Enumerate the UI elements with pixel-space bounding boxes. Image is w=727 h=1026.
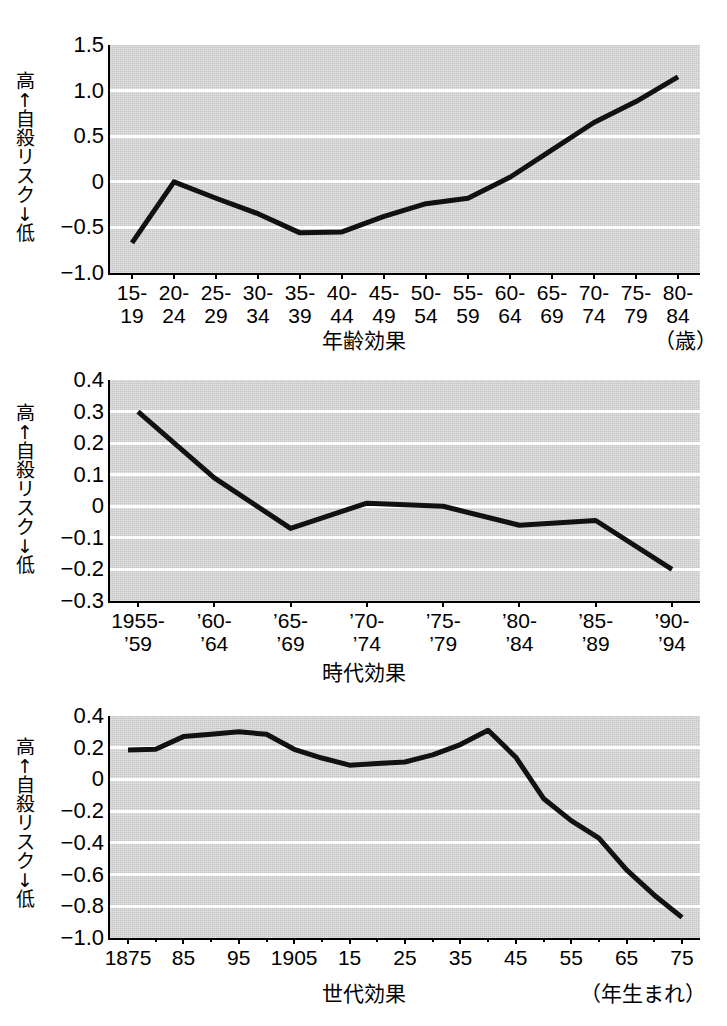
x-tick-label: 1875 (105, 946, 152, 969)
chart-panel-period-effect: 高 ↑ 自 殺 リ ス ク ↓ 低 0.40.30.20.10−0.1−0.2−… (0, 362, 727, 698)
y-tick-label: 0 (38, 495, 104, 517)
x-axis-tick-mark (137, 601, 139, 607)
y-tick-label: 0.3 (38, 401, 104, 423)
x-axis-tick-mark (131, 273, 133, 279)
x-axis-tick-mark (515, 938, 517, 944)
y-axis-caption-period: 高 ↑ 自 殺 リ ス ク ↓ 低 (12, 404, 38, 575)
x-tick-label: 20- 24 (159, 281, 189, 327)
x-axis-tick-mark (671, 601, 673, 607)
y-tick-label: −0.4 (38, 832, 104, 854)
x-axis-minor-tick-mark (321, 938, 323, 942)
x-tick-label: 60- 64 (495, 281, 525, 327)
x-axis-tick-mark (595, 601, 597, 607)
x-tick-label: 1905 (271, 946, 318, 969)
x-axis-tick-mark (127, 938, 129, 944)
y-caption-low: 低 (12, 890, 38, 909)
x-axis-tick-mark (442, 601, 444, 607)
x-tick-label: 30- 34 (243, 281, 273, 327)
series-line-layer (110, 45, 700, 273)
x-tick-label: 55- 59 (453, 281, 483, 327)
x-axis-tick-mark (681, 938, 683, 944)
x-axis-minor-tick-mark (653, 938, 655, 942)
y-caption-low: 低 (12, 224, 38, 243)
x-axis-tick-mark (459, 938, 461, 944)
y-tick-label: 1.0 (38, 80, 104, 102)
y-tick-label: −0.8 (38, 895, 104, 917)
chart-panel-cohort-effect: 高 ↑ 自 殺 リ ス ク ↓ 低 0.40.20−0.2−0.4−0.6−0.… (0, 698, 727, 1026)
x-axis-tick-mark (509, 273, 511, 279)
x-tick-label: 25 (393, 946, 416, 969)
x-axis-tick-mark (404, 938, 406, 944)
y-tick-label: 0.2 (38, 432, 104, 454)
y-tick-label: 0.1 (38, 464, 104, 486)
x-axis-tick-mark (635, 273, 637, 279)
x-tick-label: ’80- ’84 (502, 609, 537, 655)
y-tick-label: −1.0 (38, 262, 104, 284)
x-axis-minor-tick-mark (598, 938, 600, 942)
x-tick-label: 50- 54 (411, 281, 441, 327)
y-tick-label: −0.5 (38, 216, 104, 238)
x-axis-tick-mark (467, 273, 469, 279)
plot-area-cohort-effect (110, 716, 700, 938)
y-tick-label: 0 (38, 171, 104, 193)
x-tick-label: 45 (504, 946, 527, 969)
x-axis-tick-mark (215, 273, 217, 279)
x-axis-tick-mark (341, 273, 343, 279)
x-tick-label: 75- 79 (621, 281, 651, 327)
x-axis-tick-mark (182, 938, 184, 944)
x-tick-label: 40- 44 (327, 281, 357, 327)
x-axis-minor-tick-mark (432, 938, 434, 942)
x-axis-tick-mark (366, 601, 368, 607)
x-tick-label: 15 (338, 946, 361, 969)
x-tick-label: 65 (615, 946, 638, 969)
x-axis-minor-tick-mark (155, 938, 157, 942)
series-line (128, 730, 682, 917)
x-tick-label: ’60- ’64 (197, 609, 232, 655)
x-tick-label: 35- 39 (285, 281, 315, 327)
x-axis-minor-tick-mark (487, 938, 489, 942)
x-axis-minor-tick-mark (266, 938, 268, 942)
x-axis-tick-mark (570, 938, 572, 944)
y-axis-caption-cohort: 高 ↑ 自 殺 リ ス ク ↓ 低 (12, 738, 38, 909)
y-tick-label: 0.4 (38, 705, 104, 727)
x-axis-tick-mark (299, 273, 301, 279)
y-tick-label: 0 (38, 768, 104, 790)
x-tick-label: 15- 19 (117, 281, 147, 327)
x-axis-tick-mark (238, 938, 240, 944)
y-tick-label: −0.2 (38, 800, 104, 822)
series-line (132, 77, 678, 243)
x-axis-tick-mark (425, 273, 427, 279)
x-tick-label: ’90- ’94 (654, 609, 689, 655)
x-axis-minor-tick-mark (376, 938, 378, 942)
x-axis-minor-tick-mark (210, 938, 212, 942)
y-tick-label: −0.6 (38, 864, 104, 886)
x-tick-label: ’75- ’79 (426, 609, 461, 655)
series-line-layer (110, 716, 700, 938)
x-axis-tick-mark (551, 273, 553, 279)
x-axis-unit-age: （歳） (654, 330, 717, 353)
x-axis-tick-mark (677, 273, 679, 279)
suicide-risk-apc-figure: 高 ↑ 自 殺 リ ス ク ↓ 低 1.51.00.50−0.5−1.0 15-… (0, 0, 727, 1026)
x-tick-label: ’65- ’69 (273, 609, 308, 655)
x-tick-label: 70- 74 (579, 281, 609, 327)
x-axis-tick-mark (626, 938, 628, 944)
x-tick-label: 45- 49 (369, 281, 399, 327)
series-line-layer (110, 380, 700, 601)
series-line (138, 412, 672, 570)
y-tick-label: 0.4 (38, 369, 104, 391)
x-tick-label: ’85- ’89 (578, 609, 613, 655)
y-tick-label: −1.0 (38, 927, 104, 949)
x-axis-tick-mark (518, 601, 520, 607)
y-tick-label: −0.1 (38, 527, 104, 549)
x-axis-tick-mark (349, 938, 351, 944)
plot-area-age-effect (110, 45, 700, 273)
x-axis-tick-mark (383, 273, 385, 279)
y-tick-label: 0.5 (38, 125, 104, 147)
plot-area-period-effect (110, 380, 700, 601)
x-tick-label: 25- 29 (201, 281, 231, 327)
x-axis-tick-mark (290, 601, 292, 607)
x-tick-label: 35 (449, 946, 472, 969)
x-tick-label: 65- 69 (537, 281, 567, 327)
y-tick-label: 0.2 (38, 737, 104, 759)
x-axis-title-period: 時代効果 (0, 662, 727, 685)
